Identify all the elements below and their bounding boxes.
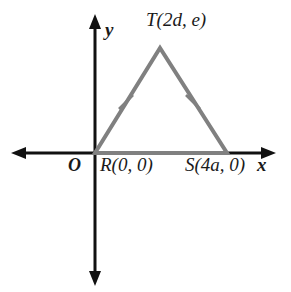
y-axis-top-arrowhead bbox=[89, 14, 101, 29]
triangle-outline bbox=[95, 48, 227, 153]
x-axis-left-arrowhead bbox=[11, 147, 26, 159]
congruence-tick-marks bbox=[119, 95, 200, 109]
coordinate-plane-figure: T(2d, e) R(0, 0) S(4a, 0) O x y bbox=[0, 0, 291, 292]
point-label-t: T(2d, e) bbox=[146, 10, 206, 29]
tick-mark-leg-rt bbox=[119, 95, 133, 109]
y-axis-label: y bbox=[105, 20, 113, 39]
point-label-r: R(0, 0) bbox=[100, 155, 153, 174]
y-axis-bottom-arrowhead bbox=[89, 271, 101, 286]
point-label-s: S(4a, 0) bbox=[185, 155, 245, 174]
geometry-diagram-svg bbox=[0, 0, 291, 292]
x-axis-label: x bbox=[257, 155, 267, 174]
origin-label: O bbox=[68, 156, 81, 174]
triangle-rst bbox=[95, 48, 227, 153]
